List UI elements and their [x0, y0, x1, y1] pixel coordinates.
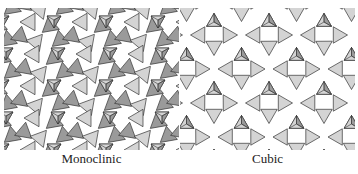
tetrahedron-face	[206, 41, 222, 55]
tetrahedron-face	[343, 143, 355, 150]
tetrahedron-face	[333, 95, 347, 111]
tetrahedron-face	[124, 141, 139, 150]
tetrahedron-face	[4, 8, 21, 14]
tetrahedron-face	[306, 129, 320, 145]
tetrahedron-face	[206, 109, 222, 123]
tetrahedron-face	[108, 8, 125, 14]
tetrahedron-face	[11, 26, 28, 42]
tetrahedron-face	[180, 95, 183, 111]
tetrahedron-face	[328, 61, 342, 77]
tetrahedron-face	[278, 95, 292, 111]
tetrahedron-face	[333, 27, 347, 43]
tetrahedron-face	[269, 149, 276, 150]
tetrahedron-face	[316, 41, 332, 55]
tetrahedron-face	[20, 141, 35, 150]
tetrahedron-face	[273, 8, 287, 9]
tetrahedron-face	[67, 122, 84, 138]
tetrahedron-face	[171, 58, 179, 74]
monoclinic-caption: Monoclinic	[4, 151, 179, 167]
tetrahedron-face	[223, 27, 237, 43]
monoclinic-structure-diagram	[4, 8, 179, 150]
tetrahedron-face	[180, 27, 183, 43]
tetrahedron-face	[261, 109, 277, 123]
tetrahedron-face	[15, 122, 32, 138]
cubic-structure-diagram	[180, 8, 355, 150]
tetrahedron-face	[233, 8, 249, 22]
tetrahedron-face	[288, 8, 304, 22]
tetrahedron-face	[171, 122, 179, 138]
tetrahedron-face	[288, 75, 304, 89]
tetrahedron-face	[261, 41, 277, 55]
tetrahedron-face	[343, 75, 355, 89]
tetrahedron-face	[316, 109, 332, 123]
tetrahedron-face	[218, 129, 232, 145]
tetrahedron-face	[233, 143, 249, 150]
tetrahedron-face	[273, 129, 287, 145]
tetrahedron-face	[251, 129, 265, 145]
tetrahedron-face	[223, 95, 237, 111]
tetrahedron-face	[15, 58, 32, 74]
tetrahedron-face	[218, 8, 232, 9]
tetrahedron-face	[343, 8, 355, 22]
tetrahedron-face	[273, 61, 287, 77]
tetrahedron-face	[160, 8, 177, 14]
tetrahedron-face	[11, 90, 28, 106]
tetrahedron-face	[115, 26, 132, 42]
tetrahedron-face	[56, 8, 73, 14]
tetrahedron-face	[63, 26, 80, 42]
tetrahedron-face	[328, 8, 342, 9]
tetrahedron-face	[196, 61, 210, 77]
tetrahedron-face	[191, 27, 205, 43]
tetrahedron-face	[251, 8, 265, 9]
tetrahedron-face	[115, 90, 132, 106]
tetrahedron-face	[301, 27, 315, 43]
tetrahedron-face	[176, 141, 179, 150]
tetrahedron-face	[233, 75, 249, 89]
tetrahedron-face	[218, 61, 232, 77]
tetrahedron-face	[306, 8, 320, 9]
cubic-caption: Cubic	[180, 151, 355, 167]
tetrahedron-face	[167, 26, 179, 42]
tetrahedron-face	[306, 61, 320, 77]
cubic-polyhedra-network	[180, 8, 355, 150]
tetrahedron-face	[246, 27, 260, 43]
tetrahedron-face	[180, 75, 195, 89]
tetrahedron-face	[251, 61, 265, 77]
tetrahedron-face	[324, 149, 331, 150]
tetrahedron-face	[63, 90, 80, 106]
tetrahedron-face	[72, 141, 87, 150]
tetrahedron-face	[67, 58, 84, 74]
tetrahedron-face	[167, 90, 179, 106]
monoclinic-polyhedra-network	[4, 8, 179, 150]
tetrahedron-face	[196, 129, 210, 145]
tetrahedron-face	[278, 27, 292, 43]
tetrahedron-face	[119, 58, 136, 74]
tetrahedron-face	[214, 149, 221, 150]
tetrahedron-face	[246, 95, 260, 111]
tetrahedron-face	[301, 95, 315, 111]
tetrahedron-face	[288, 143, 304, 150]
tetrahedron-face	[191, 95, 205, 111]
tetrahedron-face	[196, 8, 210, 9]
tetrahedron-face	[119, 122, 136, 138]
tetrahedron-face	[180, 143, 195, 150]
tetrahedron-face	[328, 129, 342, 145]
tetrahedron-face	[180, 8, 195, 22]
